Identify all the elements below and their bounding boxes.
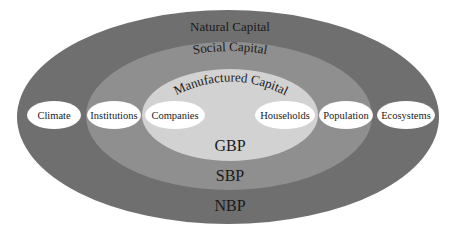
gbp-label: GBP xyxy=(214,137,245,154)
svg-text:Institutions: Institutions xyxy=(90,110,137,121)
svg-text:Ecosystems: Ecosystems xyxy=(381,110,431,121)
natural-capital-label: Natural Capital xyxy=(190,19,270,34)
oval-population: Population xyxy=(319,101,373,129)
svg-text:Climate: Climate xyxy=(37,110,71,121)
oval-ecosystems: Ecosystems xyxy=(377,101,435,129)
oval-climate: Climate xyxy=(27,101,81,129)
sbp-label: SBP xyxy=(216,167,245,184)
oval-households: Households xyxy=(255,101,315,129)
capital-diagram: Natural Capital Social Capital Manufactu… xyxy=(0,0,455,234)
oval-companies: Companies xyxy=(145,101,205,129)
svg-text:Companies: Companies xyxy=(151,110,198,121)
svg-text:Population: Population xyxy=(323,110,369,121)
svg-text:Households: Households xyxy=(260,110,310,121)
nbp-label: NBP xyxy=(214,197,245,214)
oval-institutions: Institutions xyxy=(87,101,141,129)
